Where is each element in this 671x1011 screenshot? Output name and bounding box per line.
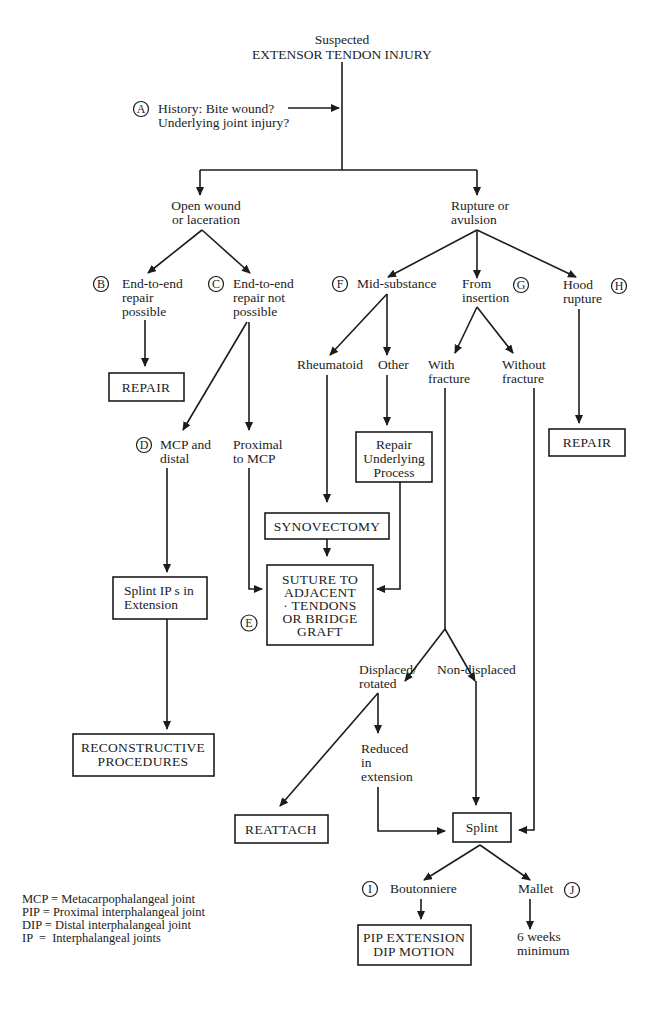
hood-repair-label: REPAIR [563,435,612,450]
history-node: A History: Bite wound? Underlying joint … [134,101,290,130]
extensor-tendon-flowchart: Suspected EXTENSOR TENDON INJURY A Histo… [0,0,671,1011]
mallet-label: Mallet [518,881,553,896]
b-line-3: possible [122,304,166,319]
title-line-2: EXTENSOR TENDON INJURY [252,47,432,62]
reconstructive-line-2: PROCEDURES [98,754,189,769]
d-line-2: distal [160,451,189,466]
arrow-to-c [202,230,250,273]
hood-rupture-node: Hood rupture H [563,277,627,306]
suture-box: E SUTURE TO ADJACENT · TENDONS OR BRIDGE… [241,565,373,645]
rupture-node: Rupture or avulsion [451,198,510,227]
boutonniere-node: I Boutonniere [363,881,457,897]
displaced-line-2: rotated [359,676,397,691]
suture-line-5: GRAFT [297,624,343,639]
arrow-to-with-fracture [455,307,477,353]
c-line-2: repair not [233,290,285,305]
repair-not-possible-node: C End-to-end repair not possible [209,276,294,319]
splint-ips-line-2: Extension [124,597,178,612]
marker-i: I [368,882,372,896]
legend-pip: PIP = Proximal interphalangeal joint [22,905,205,919]
abbreviation-legend: MCP = Metacarpophalangeal joint PIP = Pr… [22,892,205,945]
c-line-1: End-to-end [233,276,294,291]
six-weeks-line-1: 6 weeks [517,929,561,944]
repair-possible-node: B End-to-end repair possible [94,276,183,319]
repair-underlying-line-1: Repair [376,437,412,452]
reduced-to-splint-arrow [378,787,445,831]
rheumatoid-label: Rheumatoid [297,357,363,372]
history-line-1: History: Bite wound? [158,101,274,116]
splint-label: Splint [466,820,499,835]
other-label: Other [378,357,409,372]
legend-dip: DIP = Distal interphalangeal joint [22,918,192,932]
marker-j: J [570,883,575,897]
reduced-node: Reduced in extension [361,741,413,784]
proximal-to-suture-arrow [249,468,262,589]
legend-ip: IP = Interphalangeal joints [22,931,161,945]
hood-line-2: rupture [563,291,602,306]
marker-a: A [137,102,146,116]
marker-b: B [97,277,105,291]
reconstructive-box: RECONSTRUCTIVE PROCEDURES [73,734,214,776]
boutonniere-label: Boutonniere [390,881,457,896]
reconstructive-line-1: RECONSTRUCTIVE [81,740,205,755]
open-line-1: Open wound [171,198,241,213]
pip-dip-box: PIP EXTENSION DIP MOTION [358,925,471,965]
with-fracture-line-1: With [428,357,455,372]
reattach-box: REATTACH [235,815,328,843]
arrow-to-boutonniere [424,845,480,880]
marker-h: H [615,279,624,293]
insertion-line-2: insertion [462,290,509,305]
repair-underlying-box: Repair Underlying Process [356,432,432,482]
arrow-to-mallet [480,845,530,880]
reattach-label: REATTACH [245,822,317,837]
reduced-line-3: extension [361,769,413,784]
displaced-line-1: Displaced/ [359,662,417,677]
reduced-line-1: Reduced [361,741,408,756]
insertion-line-1: From [462,276,492,291]
arrow-to-d [183,322,247,430]
mid-substance-label: Mid-substance [357,276,436,291]
splint-ips-line-1: Splint IP s in [124,583,194,598]
c-line-3: possible [233,304,277,319]
arrow-to-without-fracture [477,307,513,353]
marker-g: G [517,278,526,292]
reduced-line-2: in [361,755,372,770]
without-fracture-to-splint-arrow [519,388,534,830]
without-fracture-line-1: Without [502,357,546,372]
proximal-line-2: to MCP [233,451,275,466]
marker-c: C [212,277,220,291]
marker-e: E [245,616,252,630]
repair-box-label: REPAIR [122,380,171,395]
six-weeks-line-2: minimum [517,943,570,958]
without-fracture-line-2: fracture [502,371,544,386]
repair-underlying-line-2: Underlying [363,451,425,466]
open-wound-node: Open wound or laceration [171,198,241,227]
history-line-2: Underlying joint injury? [158,115,289,130]
repair-underlying-line-3: Process [373,465,414,480]
marker-f: F [337,277,344,291]
arrow-to-h [477,230,576,277]
mcp-distal-node: D MCP and distal [137,437,212,466]
repair-box: REPAIR [109,373,184,401]
title-node: Suspected EXTENSOR TENDON INJURY [252,32,432,62]
mallet-node: Mallet J [518,881,580,898]
synovectomy-box: SYNOVECTOMY [265,513,389,539]
splint-box: Splint [453,813,511,842]
hood-line-1: Hood [563,277,593,292]
splint-ips-box: Splint IP s in Extension [113,577,207,619]
proximal-line-1: Proximal [233,437,283,452]
pip-dip-line-2: DIP MOTION [373,944,455,959]
synovectomy-label: SYNOVECTOMY [274,519,381,534]
from-insertion-node: From insertion G [462,276,529,305]
with-fracture-line-2: fracture [428,371,470,386]
pip-dip-line-1: PIP EXTENSION [363,930,465,945]
legend-mcp: MCP = Metacarpophalangeal joint [22,892,195,906]
rupture-line-1: Rupture or [451,198,510,213]
b-line-2: repair [122,290,154,305]
b-line-1: End-to-end [122,276,183,291]
marker-d: D [140,438,149,452]
arrow-to-f [388,230,477,277]
arrow-to-rheumatoid [330,294,387,355]
title-line-1: Suspected [315,32,370,47]
rupture-line-2: avulsion [451,212,497,227]
